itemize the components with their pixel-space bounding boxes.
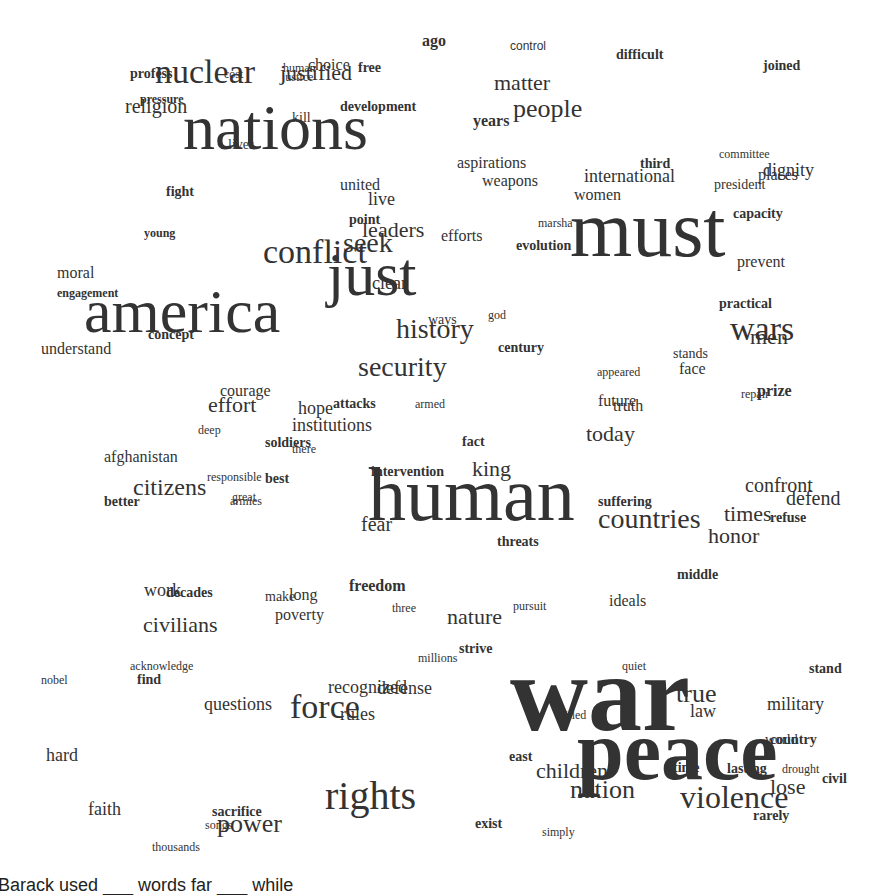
cloud-word: ways xyxy=(428,313,457,327)
cloud-word: matter xyxy=(494,72,550,94)
cloud-word: better xyxy=(104,495,140,509)
cloud-word: pursuit xyxy=(513,600,546,612)
cloud-word: joined xyxy=(763,59,800,73)
cloud-word: armed xyxy=(415,398,445,410)
cloud-word: concept xyxy=(148,328,194,342)
cloud-word: security xyxy=(358,353,447,381)
cloud-word: questions xyxy=(204,695,272,713)
cloud-word: development xyxy=(340,100,416,114)
cloud-word: pressure xyxy=(140,93,184,105)
cloud-word: thousands xyxy=(152,841,200,853)
cloud-word: military xyxy=(767,695,824,713)
cloud-word: president xyxy=(714,178,765,192)
cloud-word: songs xyxy=(205,819,232,831)
cloud-word: appeared xyxy=(597,366,640,378)
cloud-word: attacks xyxy=(333,397,376,411)
cloud-word: armies xyxy=(230,495,262,507)
cloud-word: millions xyxy=(418,652,457,664)
cloud-word: clear xyxy=(372,274,407,292)
cloud-word: king xyxy=(472,458,511,480)
cloud-word: capacity xyxy=(733,207,783,221)
cloud-word: middle xyxy=(677,568,718,582)
cloud-word: marsha xyxy=(538,217,573,229)
cloud-word: intervention xyxy=(371,465,444,479)
cloud-word: acknowledge xyxy=(130,660,193,672)
cloud-word: century xyxy=(498,341,544,355)
cloud-word: killed xyxy=(559,709,586,721)
cloud-word: efforts xyxy=(441,228,482,244)
cloud-word: lives xyxy=(228,138,254,152)
cloud-word: sacrifice xyxy=(212,805,262,819)
cloud-word: engagement xyxy=(57,287,118,299)
cloud-word: time xyxy=(673,761,699,775)
cloud-word: practical xyxy=(719,297,772,311)
cloud-word: face xyxy=(679,361,706,377)
cloud-word: weapons xyxy=(482,173,538,189)
cloud-word: free xyxy=(358,61,381,75)
cloud-word: women xyxy=(574,187,621,203)
cloud-word: hard xyxy=(46,746,78,764)
cloud-word: stand xyxy=(809,662,842,676)
cloud-word: choice xyxy=(308,57,350,73)
cloud-word: fight xyxy=(166,185,194,199)
cloud-word: fear xyxy=(361,514,392,534)
cloud-word: drought xyxy=(782,763,819,775)
cloud-word: rules xyxy=(340,705,375,723)
cloud-word: years xyxy=(473,113,509,129)
cloud-word: stands xyxy=(673,347,708,361)
cloud-word: freedom xyxy=(349,578,406,594)
cloud-word: long xyxy=(289,587,317,603)
cloud-word: decades xyxy=(166,586,213,600)
cloud-word: threats xyxy=(497,535,539,549)
cloud-word: children xyxy=(536,760,608,782)
cloud-word: strive xyxy=(459,642,492,656)
cloud-word: simply xyxy=(542,826,575,838)
cloud-word: ideals xyxy=(609,593,646,609)
cloud-word: best xyxy=(265,472,289,486)
cloud-word: moral xyxy=(57,265,94,281)
cloud-word: world xyxy=(765,733,798,747)
cloud-word: understand xyxy=(41,341,111,357)
cloud-word: responsible xyxy=(207,471,262,483)
cloud-word: poverty xyxy=(275,607,324,623)
cloud-word: quiet xyxy=(622,660,646,672)
cloud-word: committee xyxy=(719,148,770,160)
cloud-word: repair xyxy=(741,388,769,400)
cloud-word: profess xyxy=(130,67,173,81)
cloud-word: young xyxy=(144,227,175,239)
cloud-word: nature xyxy=(447,606,502,628)
cloud-word: men xyxy=(750,326,788,348)
cloud-word: control xyxy=(510,40,546,52)
cloud-word: today xyxy=(586,423,635,445)
cloud-word: deep xyxy=(198,424,221,436)
cloud-word: defense xyxy=(377,679,432,697)
cloud-word: civil xyxy=(822,772,847,786)
cloud-word: third xyxy=(640,157,670,171)
cloud-word: refuse xyxy=(770,511,806,525)
cloud-word: ago xyxy=(422,33,446,49)
cloud-word: east xyxy=(509,750,532,764)
cloud-word: honor xyxy=(708,525,759,547)
cloud-word: lose xyxy=(770,776,805,798)
cloud-word: point xyxy=(349,213,380,227)
cloud-word: defend xyxy=(786,488,840,508)
cloud-word: evolution xyxy=(516,239,571,253)
cloud-word: people xyxy=(513,96,582,122)
cloud-word: civilians xyxy=(143,614,218,636)
cloud-word: kill xyxy=(292,111,311,125)
cloud-word: find xyxy=(137,673,161,687)
cloud-word: prevent xyxy=(737,254,785,270)
cloud-word: there xyxy=(292,443,316,455)
cloud-word: faith xyxy=(88,800,121,818)
cloud-word: times xyxy=(724,503,772,525)
cloud-word: fact xyxy=(462,435,485,449)
cloud-word: cost xyxy=(224,68,243,80)
cloud-word: rights xyxy=(325,776,416,816)
cloud-word: courage xyxy=(220,383,271,399)
cloud-word: live xyxy=(368,190,395,208)
cloud-word: suffering xyxy=(598,495,652,509)
cloud-word: hope xyxy=(298,399,333,417)
cloud-word: difficult xyxy=(616,48,663,62)
cloud-word: exist xyxy=(475,817,502,831)
